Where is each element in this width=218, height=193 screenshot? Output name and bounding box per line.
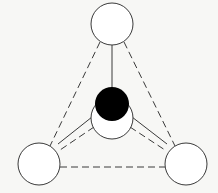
atom-bottom-right: [165, 143, 207, 185]
atom-top: [91, 3, 133, 45]
atom-center: [95, 87, 129, 121]
tetrahedral-molecule-diagram: [0, 0, 218, 193]
atom-bottom-left: [18, 143, 60, 185]
